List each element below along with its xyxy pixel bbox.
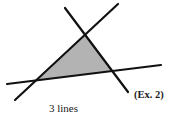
caption: 3 lines — [49, 101, 78, 115]
three-lines-diagram: (Ex. 2) 3 lines — [0, 0, 173, 115]
line-a — [15, 4, 118, 100]
example-label: (Ex. 2) — [134, 88, 164, 101]
